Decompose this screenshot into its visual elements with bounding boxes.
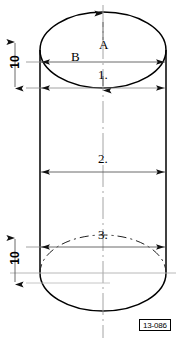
dimension-label-a: A [99,38,108,51]
dimension-label-b: B [71,50,80,63]
extension-lines [26,62,110,283]
dimension-label-two: 2. [98,152,108,165]
dimension-label-one: 1. [98,68,108,81]
dimension-label-ten-bottom: 10 [9,250,21,266]
center-lines [10,5,176,338]
engineering-drawing-canvas: A B 1. 2. 3. 10 10 13-086 [0,0,183,343]
dimension-label-three: 3. [98,228,108,241]
dimension-label-ten-top: 10 [9,54,21,70]
figure-code-label: 13-086 [139,319,171,331]
cylinder-drawing-svg [0,0,183,343]
